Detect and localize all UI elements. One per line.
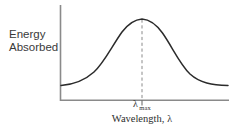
lambda-max-subscript: max <box>138 104 151 111</box>
x-axis-label: Wavelength,λ <box>72 113 212 124</box>
x-axis-lambda-symbol: λ <box>164 113 172 124</box>
absorption-curve <box>61 19 228 86</box>
y-axis-label-line1: Energy <box>9 28 61 41</box>
y-axis-label: Energy Absorbed <box>9 28 61 53</box>
x-axis-label-text: Wavelength, <box>112 113 165 124</box>
lambda-max-tick-label: λmax <box>118 98 166 111</box>
absorption-spectrum-figure: Energy Absorbed λmax Wavelength,λ <box>0 0 238 129</box>
y-axis-label-line2: Absorbed <box>9 41 61 54</box>
